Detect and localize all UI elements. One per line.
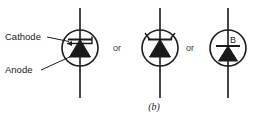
figure-caption: (b) [148,101,160,113]
or-separator-first: or [113,43,121,53]
symbol-thyristor-v-gate [142,8,178,98]
symbol2-anode-triangle [150,40,171,58]
figure-canvas: Cathode Anode or or B (b) [0,0,263,117]
symbol-thyristor-base-b: B [210,8,246,98]
gate-b-label: B [230,35,236,45]
symbol-thyristor-hook-gate [62,8,98,98]
thyristor-symbol-figure: Cathode Anode or or B (b) [0,0,263,117]
anode-label: Anode [5,64,32,75]
or-separator-second: or [186,43,194,53]
symbol3-anode-triangle [219,46,238,61]
cathode-label: Cathode [5,31,41,42]
symbol1-anode-triangle [70,40,91,58]
